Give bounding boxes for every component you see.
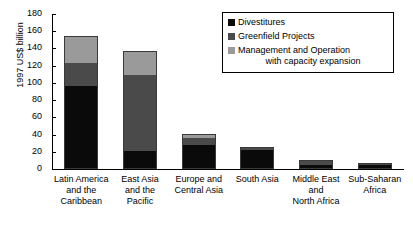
legend-label-line2: with capacity expansion	[238, 56, 388, 67]
bar-segment	[65, 37, 97, 63]
x-axis-category-label: Europe andCentral Asia	[166, 174, 232, 196]
category-label-line: Sub-Saharan	[342, 174, 408, 185]
y-axis-tick-label: 140	[14, 42, 42, 52]
y-axis-tick-label: 20	[14, 146, 42, 156]
stacked-bar-chart: 1997 US$ billion 18016014012010080604020…	[0, 0, 413, 233]
category-label-line: Central Asia	[166, 185, 232, 196]
x-axis-category-label: Sub-SaharanAfrica	[342, 174, 408, 196]
bar-segment	[65, 63, 97, 86]
x-axis-category-labels: Latin Americaand theCaribbeanEast Asiaan…	[52, 174, 404, 232]
stacked-bar[interactable]	[358, 163, 392, 169]
y-axis-tick-label: 120	[14, 60, 42, 70]
legend-swatch-icon	[228, 19, 235, 26]
bar-segment	[124, 52, 156, 75]
legend-item[interactable]: Greenfield Projects	[228, 31, 388, 42]
stacked-bar[interactable]	[299, 160, 333, 169]
bar-segment	[183, 138, 215, 145]
category-label-line: and the	[107, 185, 173, 196]
legend-label: Divestitures	[238, 17, 388, 28]
y-axis-tick-mark	[52, 169, 56, 170]
bar-segment	[183, 145, 215, 168]
y-axis-tick-label: 40	[14, 129, 42, 139]
category-label-line: Middle East	[283, 174, 349, 185]
stacked-bar[interactable]	[123, 51, 157, 169]
y-axis-tick-label: 100	[14, 77, 42, 87]
bar-segment	[359, 165, 391, 168]
legend-item[interactable]: Divestitures	[228, 17, 388, 28]
x-axis-category-label: Middle EastandNorth Africa	[283, 174, 349, 207]
category-label-line: Latin America	[48, 174, 114, 185]
bar-segment	[124, 75, 156, 151]
stacked-bar[interactable]	[182, 134, 216, 169]
x-axis-category-label: South Asia	[224, 174, 290, 185]
bar-segment	[300, 165, 332, 168]
legend-label: Management and Operationwith capacity ex…	[238, 45, 388, 67]
legend-swatch-icon	[228, 33, 235, 40]
category-label-line: Europe and	[166, 174, 232, 185]
y-axis-tick-label: 180	[14, 8, 42, 18]
bar-segment	[124, 151, 156, 168]
stacked-bar[interactable]	[64, 36, 98, 169]
legend-item[interactable]: Management and Operationwith capacity ex…	[228, 45, 388, 67]
category-label-line: Pacific	[107, 196, 173, 207]
category-label-line: South Asia	[224, 174, 290, 185]
category-label-line: and the	[48, 185, 114, 196]
y-axis-tick-label: 0	[14, 163, 42, 173]
legend-label: Greenfield Projects	[238, 31, 388, 42]
x-axis-category-label: Latin Americaand theCaribbean	[48, 174, 114, 207]
x-axis-category-label: East Asiaand thePacific	[107, 174, 173, 207]
category-label-line: Caribbean	[48, 196, 114, 207]
chart-legend: DivestituresGreenfield ProjectsManagemen…	[222, 12, 394, 73]
x-axis-line	[52, 169, 404, 170]
y-axis-tick-label: 80	[14, 94, 42, 104]
bar-segment	[65, 86, 97, 168]
stacked-bar[interactable]	[240, 147, 274, 169]
category-label-line: North Africa	[283, 196, 349, 207]
category-label-line: East Asia	[107, 174, 173, 185]
category-label-line: Africa	[342, 185, 408, 196]
category-label-line: and	[283, 185, 349, 196]
y-axis-tick-label: 160	[14, 25, 42, 35]
bar-segment	[241, 150, 273, 168]
y-axis-tick-label: 60	[14, 111, 42, 121]
legend-swatch-icon	[228, 47, 235, 54]
